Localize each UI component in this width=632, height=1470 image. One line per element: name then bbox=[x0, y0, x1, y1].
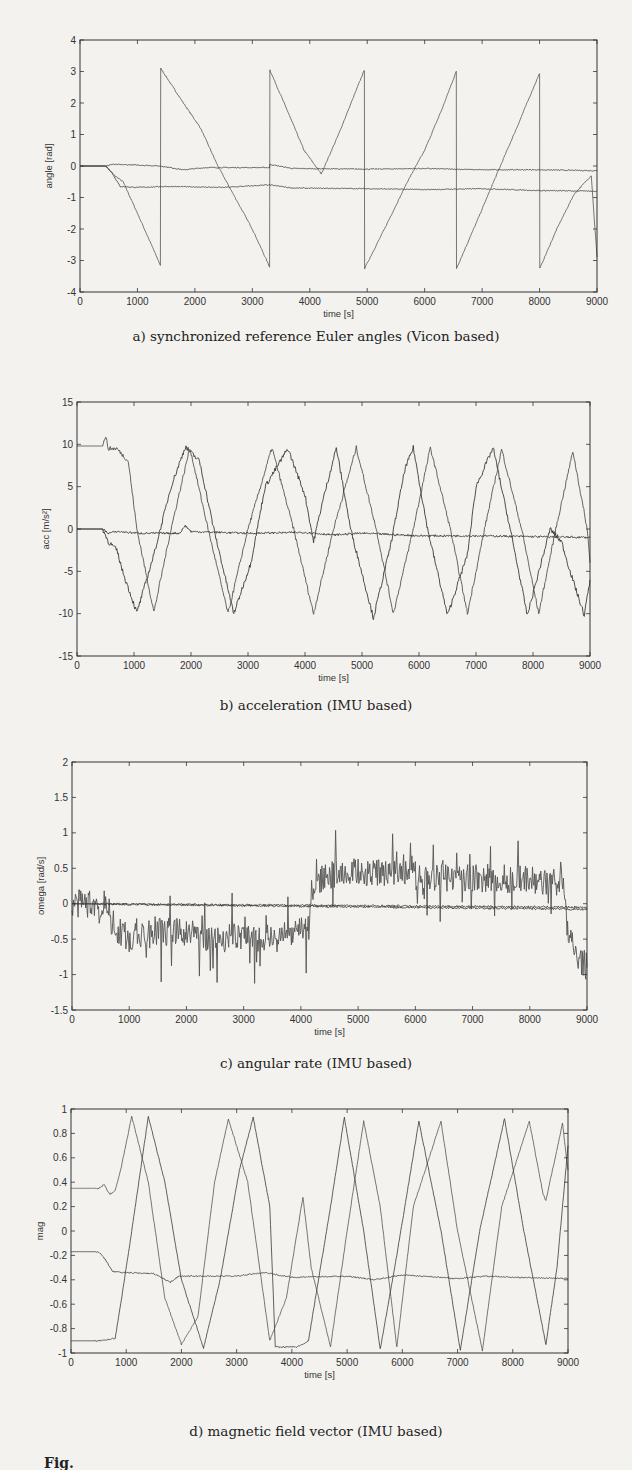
x-tick-label: 8000 bbox=[502, 1357, 525, 1368]
x-tick-label: 4000 bbox=[281, 1357, 304, 1368]
x-axis-label: time [s] bbox=[304, 1369, 335, 1380]
figure-label-stub: Fig. bbox=[44, 1455, 74, 1470]
chart-d-magnetic-field: 0100020003000400050006000700080009000-1-… bbox=[0, 0, 632, 1440]
y-tick-label: 0.4 bbox=[53, 1177, 67, 1188]
y-tick-label: 0 bbox=[61, 1226, 67, 1237]
y-tick-label: -0.8 bbox=[50, 1323, 68, 1334]
y-tick-label: 0.8 bbox=[53, 1128, 67, 1139]
y-axis-label: mag bbox=[34, 1222, 45, 1240]
y-tick-label: 0.2 bbox=[53, 1201, 67, 1212]
figure-panel-d: 0100020003000400050006000700080009000-1-… bbox=[0, 0, 632, 1440]
x-tick-label: 5000 bbox=[336, 1357, 359, 1368]
series-line bbox=[71, 1116, 568, 1350]
x-tick-label: 1000 bbox=[115, 1357, 138, 1368]
y-tick-label: 0.6 bbox=[53, 1152, 67, 1163]
x-tick-label: 0 bbox=[68, 1357, 74, 1368]
x-tick-label: 9000 bbox=[557, 1357, 580, 1368]
series-line bbox=[71, 1116, 568, 1351]
x-tick-label: 7000 bbox=[446, 1357, 469, 1368]
plot-frame bbox=[71, 1109, 568, 1353]
y-tick-label: -0.4 bbox=[50, 1274, 68, 1285]
y-tick-label: 1 bbox=[61, 1104, 67, 1115]
x-tick-label: 3000 bbox=[226, 1357, 249, 1368]
caption-d: d) magnetic field vector (IMU based) bbox=[0, 1423, 632, 1439]
y-tick-label: -0.6 bbox=[50, 1299, 68, 1310]
y-tick-label: -0.2 bbox=[50, 1250, 68, 1261]
x-tick-label: 6000 bbox=[391, 1357, 414, 1368]
y-tick-label: -1 bbox=[58, 1348, 67, 1359]
x-tick-label: 2000 bbox=[170, 1357, 193, 1368]
